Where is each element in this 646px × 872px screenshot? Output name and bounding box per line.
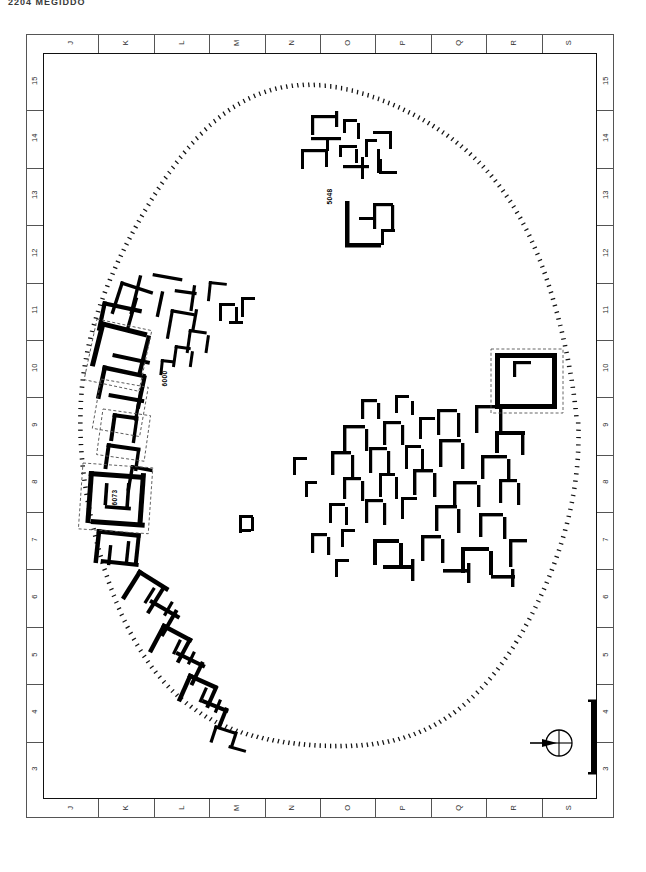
grid-row-label-left-13: 13 xyxy=(31,186,39,204)
grid-col-label-bottom-Q: Q xyxy=(455,798,463,816)
grid-tick xyxy=(209,34,210,53)
grid-tick xyxy=(375,799,376,818)
grid-col-label-top-Q: Q xyxy=(455,33,463,51)
grid-row-label-left-15: 15 xyxy=(31,71,39,89)
site-plan-canvas: 5048 6000 6073 25 m 0 xyxy=(43,53,597,799)
grid-tick xyxy=(209,799,210,818)
grid-col-label-top-S: S xyxy=(566,33,574,51)
grid-row-label-right-9: 9 xyxy=(602,416,610,434)
plate-frame: JJKKLLMMNNOOPPQQRRSS15151414131312121111… xyxy=(26,34,614,818)
grid-tick xyxy=(597,627,614,628)
locus-label-5048: 5048 xyxy=(326,188,333,204)
grid-row-label-left-3: 3 xyxy=(31,760,39,778)
grid-row-label-right-12: 12 xyxy=(602,244,610,262)
grid-tick xyxy=(486,799,487,818)
grid-col-label-top-N: N xyxy=(289,33,297,51)
grid-tick xyxy=(26,627,43,628)
grid-tick xyxy=(597,512,614,513)
grid-tick xyxy=(597,340,614,341)
grid-tick xyxy=(98,34,99,53)
grid-tick xyxy=(597,742,614,743)
grid-col-label-bottom-L: L xyxy=(178,798,186,816)
grid-row-label-left-9: 9 xyxy=(31,416,39,434)
grid-row-label-right-3: 3 xyxy=(602,760,610,778)
locus-label-6000: 6000 xyxy=(161,370,168,386)
grid-col-label-top-J: J xyxy=(67,33,75,51)
grid-row-label-left-10: 10 xyxy=(31,358,39,376)
grid-tick xyxy=(26,225,43,226)
grid-row-label-left-6: 6 xyxy=(31,588,39,606)
grid-tick xyxy=(597,569,614,570)
grid-col-label-bottom-P: P xyxy=(399,798,407,816)
grid-tick xyxy=(597,168,614,169)
grid-row-label-right-11: 11 xyxy=(602,301,610,319)
grid-tick xyxy=(431,34,432,53)
grid-row-label-left-5: 5 xyxy=(31,645,39,663)
grid-row-label-right-10: 10 xyxy=(602,358,610,376)
grid-row-label-left-11: 11 xyxy=(31,301,39,319)
grid-tick xyxy=(597,110,614,111)
site-plan-drawing xyxy=(43,53,597,799)
grid-row-label-right-5: 5 xyxy=(602,645,610,663)
grid-row-label-right-13: 13 xyxy=(602,186,610,204)
grid-tick xyxy=(26,512,43,513)
architecture-walls xyxy=(85,111,557,753)
grid-tick xyxy=(265,799,266,818)
grid-col-label-top-R: R xyxy=(510,33,518,51)
grid-col-label-bottom-M: M xyxy=(233,798,241,816)
grid-row-label-right-8: 8 xyxy=(602,473,610,491)
grid-tick xyxy=(26,684,43,685)
grid-tick xyxy=(26,340,43,341)
grid-col-label-bottom-K: K xyxy=(122,798,130,816)
grid-tick xyxy=(597,397,614,398)
grid-col-label-top-O: O xyxy=(344,33,352,51)
grid-tick xyxy=(26,569,43,570)
grid-tick xyxy=(486,34,487,53)
grid-tick xyxy=(26,455,43,456)
grid-tick xyxy=(154,799,155,818)
grid-row-label-left-12: 12 xyxy=(31,244,39,262)
grid-col-label-bottom-O: O xyxy=(344,798,352,816)
grid-tick xyxy=(26,742,43,743)
grid-col-label-top-M: M xyxy=(233,33,241,51)
grid-tick xyxy=(26,110,43,111)
scale-bar-graphic xyxy=(530,700,597,775)
grid-row-label-left-14: 14 xyxy=(31,129,39,147)
grid-tick xyxy=(26,283,43,284)
grid-tick xyxy=(375,34,376,53)
grid-row-label-right-15: 15 xyxy=(602,71,610,89)
grid-row-label-right-14: 14 xyxy=(602,129,610,147)
grid-tick xyxy=(431,799,432,818)
grid-tick xyxy=(597,225,614,226)
grid-tick xyxy=(597,455,614,456)
grid-row-label-left-4: 4 xyxy=(31,703,39,721)
running-head: 2204 MEGIDDO xyxy=(8,0,86,7)
grid-col-label-top-K: K xyxy=(122,33,130,51)
grid-col-label-top-L: L xyxy=(178,33,186,51)
grid-col-label-bottom-J: J xyxy=(67,798,75,816)
grid-row-label-right-4: 4 xyxy=(602,703,610,721)
grid-row-label-right-6: 6 xyxy=(602,588,610,606)
grid-col-label-bottom-N: N xyxy=(289,798,297,816)
grid-tick xyxy=(320,34,321,53)
grid-tick xyxy=(26,397,43,398)
grid-col-label-top-P: P xyxy=(399,33,407,51)
grid-tick xyxy=(26,168,43,169)
grid-tick xyxy=(542,34,543,53)
grid-tick xyxy=(542,799,543,818)
grid-tick xyxy=(597,684,614,685)
locus-label-6073: 6073 xyxy=(111,489,118,505)
grid-tick xyxy=(154,34,155,53)
grid-tick xyxy=(98,799,99,818)
reconstruction-outlines xyxy=(78,319,563,534)
grid-tick xyxy=(265,34,266,53)
grid-row-label-left-7: 7 xyxy=(31,531,39,549)
grid-row-label-right-7: 7 xyxy=(602,531,610,549)
grid-tick xyxy=(597,283,614,284)
grid-col-label-bottom-R: R xyxy=(510,798,518,816)
grid-col-label-bottom-S: S xyxy=(566,798,574,816)
grid-row-label-left-8: 8 xyxy=(31,473,39,491)
grid-tick xyxy=(320,799,321,818)
